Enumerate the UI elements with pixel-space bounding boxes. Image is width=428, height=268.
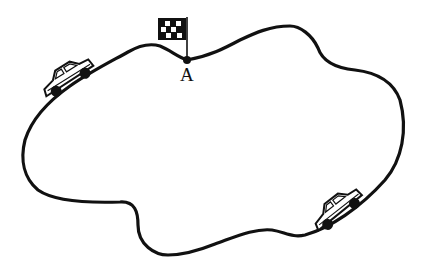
checkered-flag-icon	[158, 18, 186, 40]
car-icon-upper-left	[37, 52, 97, 102]
race-track-diagram	[0, 0, 428, 268]
car-icon-lower-right	[308, 183, 367, 236]
point-a-label: A	[180, 64, 194, 86]
race-track	[23, 26, 404, 255]
